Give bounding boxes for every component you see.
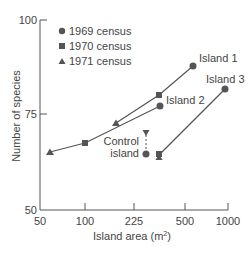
- annotation-control-1: Control: [104, 135, 139, 147]
- legend-square-icon: [59, 43, 65, 49]
- annotation-island-3: Island 3: [206, 73, 245, 85]
- y-axis-label: Number of species: [10, 70, 22, 162]
- x-tick-label: 1000: [216, 215, 240, 227]
- x-tick-label: 500: [176, 215, 194, 227]
- legend-1970: 1970 census: [69, 40, 132, 52]
- x-tick-label: 50: [34, 215, 46, 227]
- x-tick-label: 100: [76, 215, 94, 227]
- circle-icon: [157, 103, 164, 110]
- annotation-island-2: Island 2: [166, 94, 205, 106]
- circle-icon: [222, 86, 229, 93]
- circle-icon: [143, 151, 150, 158]
- legend-1969: 1969 census: [69, 25, 132, 37]
- y-tick-label: 100: [19, 14, 37, 26]
- legend-triangle-icon: [59, 58, 66, 64]
- square-icon: [156, 92, 162, 98]
- legend-1971: 1971 census: [69, 55, 132, 67]
- x-axis-label: Island area (m2): [93, 230, 171, 242]
- x-tick-label: 225: [125, 215, 143, 227]
- annotation-control-2: island: [110, 147, 139, 159]
- legend-circle-icon: [59, 28, 65, 34]
- chart: 100 75 50 50 100 225 500 1000 Island are…: [0, 0, 251, 255]
- annotation-island-1: Island 1: [199, 52, 238, 64]
- circle-icon: [190, 63, 197, 70]
- y-tick-label: 75: [25, 108, 37, 120]
- triangle-down-icon: [143, 130, 150, 136]
- square-icon: [82, 140, 88, 146]
